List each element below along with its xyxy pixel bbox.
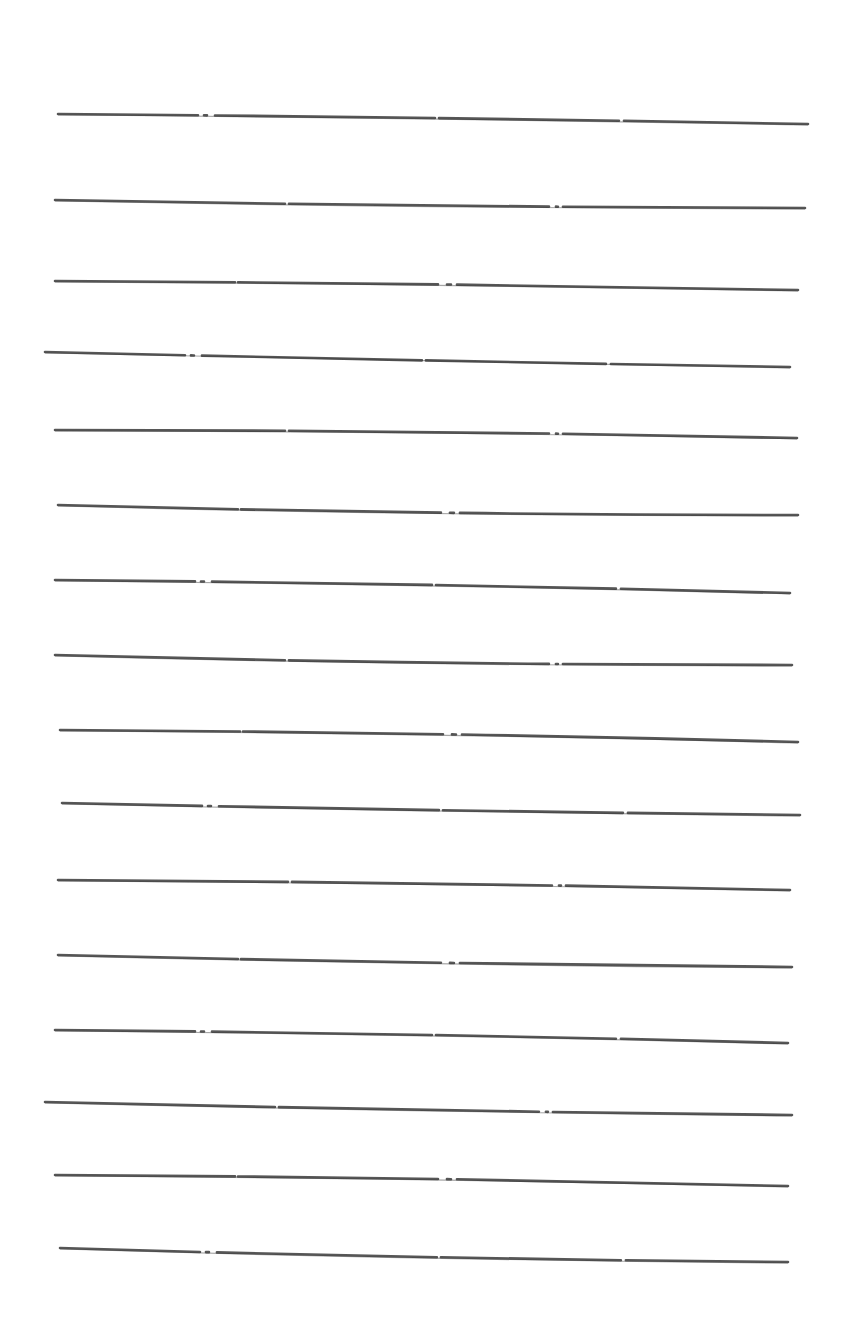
ruled-line (58, 880, 790, 891)
ruled-line (45, 352, 790, 368)
ruled-line (55, 655, 792, 666)
ruled-line (62, 803, 800, 816)
lined-paper (0, 0, 855, 1328)
ruled-line (55, 1030, 788, 1044)
ruled-line (58, 114, 808, 125)
ruled-line (55, 430, 797, 439)
ruled-line (55, 580, 790, 594)
ruled-line (45, 1102, 792, 1116)
ruled-line (55, 281, 798, 291)
ruled-line (60, 1248, 788, 1263)
ruled-line (55, 200, 805, 209)
ruled-line (55, 1175, 788, 1187)
ruled-line (60, 730, 798, 743)
ruled-line (58, 505, 798, 516)
ruled-line (58, 955, 792, 968)
